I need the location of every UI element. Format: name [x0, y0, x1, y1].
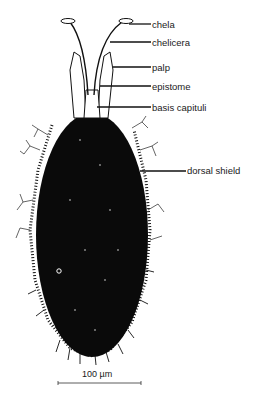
scale-bar-line: [58, 381, 141, 385]
scale-bar-label: 100 µm: [82, 369, 112, 379]
label-basis-capituli: basis capituli: [152, 103, 206, 113]
label-palp: palp: [152, 63, 170, 73]
chelae: [61, 19, 133, 24]
label-epistome: epistome: [152, 82, 191, 92]
mite-diagram: chela chelicera palp epistome basis capi…: [0, 0, 255, 395]
label-chela: chela: [152, 20, 175, 30]
label-chelicera: chelicera: [152, 38, 190, 48]
gnathosoma: [70, 52, 113, 118]
dorsal-shield-body: [36, 113, 148, 357]
label-dorsal-shield: dorsal shield: [187, 166, 240, 176]
mite-illustration: [0, 0, 255, 395]
